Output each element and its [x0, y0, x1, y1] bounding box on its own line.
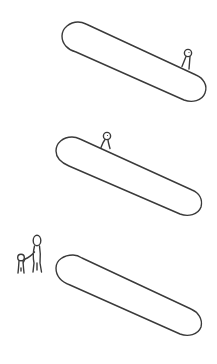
stick-figure-1	[182, 49, 192, 69]
stick-figure-2	[101, 132, 111, 148]
panel-3	[18, 235, 202, 335]
adult-body	[25, 246, 42, 272]
adult-figure	[25, 235, 42, 272]
adult-head	[33, 235, 41, 245]
figure-head	[184, 49, 191, 56]
figure-eye	[107, 135, 108, 136]
child-figure	[18, 254, 25, 273]
sketch-canvas: Hand-drawn line sketch of three tilted p…	[0, 0, 217, 364]
panel-1	[62, 22, 206, 101]
figure-head	[103, 132, 110, 139]
figure-eye	[188, 52, 189, 53]
sketch-svg	[0, 0, 217, 364]
figure-body	[101, 140, 110, 149]
panel-2	[56, 132, 202, 215]
pill-shape-3	[56, 255, 201, 335]
child-head	[18, 254, 25, 261]
pill-shape-2	[56, 137, 202, 215]
figure-body	[182, 57, 190, 70]
